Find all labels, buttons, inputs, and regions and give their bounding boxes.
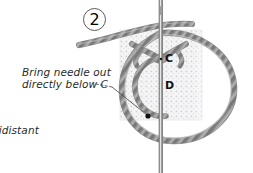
stitch-diagram-figure: 2 Bring needle out directly below C uidi…	[0, 0, 253, 173]
needle-exit-point-dot-icon	[145, 113, 150, 118]
instruction-caption-line-1: Bring needle out	[22, 66, 111, 78]
instruction-caption-line-2: directly below C	[22, 78, 108, 90]
point-label-c: C	[165, 52, 173, 65]
step-number-badge: 2	[83, 8, 106, 31]
clipped-body-text: uidistant	[0, 124, 39, 136]
point-label-d: D	[165, 79, 174, 92]
point-c-dot-icon	[160, 58, 163, 61]
sewing-needle-icon	[159, 0, 163, 173]
step-number-text: 2	[89, 10, 99, 29]
